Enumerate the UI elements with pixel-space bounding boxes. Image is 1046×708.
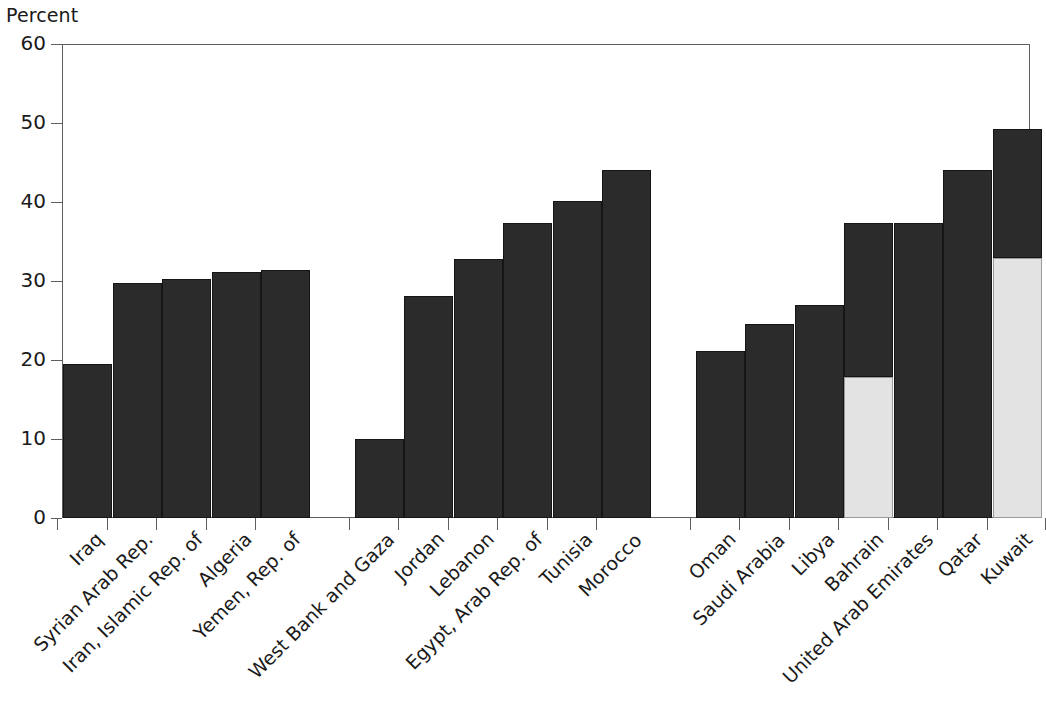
bar-lebanon — [454, 259, 503, 518]
y-tick-mark — [51, 281, 62, 282]
bar-segment-dark — [943, 170, 992, 518]
bar-segment-dark — [844, 223, 893, 377]
bar-yemen-rep-of — [261, 270, 310, 518]
y-tick-mark — [51, 202, 62, 203]
x-axis-label: Iraq — [65, 528, 107, 570]
bar-segment-dark — [894, 223, 943, 518]
bar-algeria — [212, 272, 261, 518]
bar-segment-dark — [454, 259, 503, 518]
bar-segment-light — [993, 258, 1042, 518]
x-tick-mark — [1045, 518, 1046, 530]
bar-segment-dark — [261, 270, 310, 518]
y-tick-label: 60 — [21, 31, 46, 55]
bar-united-arab-emirates — [894, 223, 943, 518]
bar-saudi-arabia — [745, 324, 794, 518]
bar-segment-dark — [602, 170, 651, 518]
y-axis-title: Percent — [6, 4, 78, 26]
bar-segment-dark — [355, 439, 404, 518]
y-tick-label: 40 — [21, 189, 46, 213]
bar-oman — [696, 351, 745, 518]
bar-iraq — [63, 364, 112, 518]
y-tick-label: 20 — [21, 347, 46, 371]
bar-qatar — [943, 170, 992, 518]
bar-segment-dark — [113, 283, 162, 518]
bar-bahrain — [844, 223, 893, 518]
y-tick-label: 30 — [21, 268, 46, 292]
bar-segment-dark — [162, 279, 211, 518]
bar-segment-dark — [745, 324, 794, 518]
bars-layer — [62, 44, 1030, 518]
x-axis-labels: IraqSyrian Arab Rep.Iran, Islamic Rep. o… — [0, 518, 1040, 708]
bar-segment-dark — [503, 223, 552, 518]
y-tick-label: 50 — [21, 110, 46, 134]
bar-segment-dark — [63, 364, 112, 518]
y-tick-mark — [51, 360, 62, 361]
bar-segment-dark — [404, 296, 453, 518]
bar-libya — [795, 305, 844, 518]
bar-west-bank-and-gaza — [355, 439, 404, 518]
cropped-caption — [0, 690, 1040, 708]
bar-segment-dark — [993, 129, 1042, 259]
bar-segment-light — [844, 377, 893, 518]
bar-kuwait — [993, 129, 1042, 518]
bar-segment-dark — [795, 305, 844, 518]
x-axis-label: Kuwait — [976, 528, 1036, 588]
y-tick-mark — [51, 44, 62, 45]
y-tick-mark — [51, 123, 62, 124]
bar-morocco — [602, 170, 651, 518]
bar-syrian-arab-rep — [113, 283, 162, 518]
bar-egypt-arab-rep-of — [503, 223, 552, 518]
bar-segment-dark — [696, 351, 745, 518]
y-tick-mark — [51, 439, 62, 440]
y-tick-label: 10 — [21, 426, 46, 450]
bar-segment-dark — [553, 201, 602, 518]
bar-jordan — [404, 296, 453, 518]
bar-iran-islamic-rep-of — [162, 279, 211, 518]
bar-segment-dark — [212, 272, 261, 518]
bar-tunisia — [553, 201, 602, 518]
